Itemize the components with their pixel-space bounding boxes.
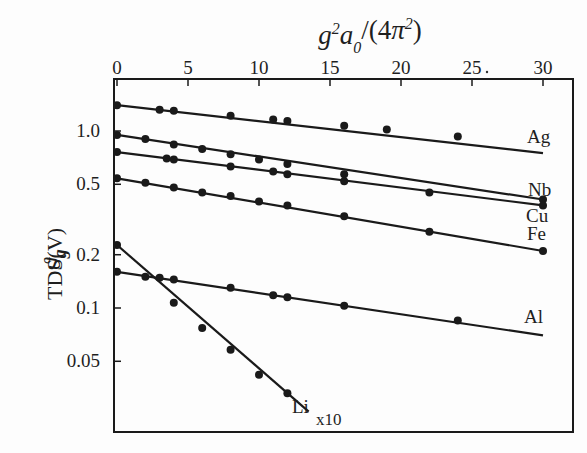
data-point	[283, 201, 291, 209]
y-tick-label: 0.05	[67, 350, 100, 371]
data-point	[269, 291, 277, 299]
plot-border	[114, 79, 573, 432]
data-point	[340, 177, 348, 185]
x-tick-label: 15	[321, 57, 340, 78]
series-group: AgNbCuFeAlLix10	[113, 101, 551, 429]
y-tick-label: 1.0	[76, 120, 100, 141]
data-point	[454, 133, 462, 141]
data-point	[255, 197, 263, 205]
x-axis-title: g2a0/(4π2)	[318, 15, 422, 56]
data-point	[141, 135, 149, 143]
x-axis-ticks: 051015202530	[112, 57, 552, 86]
fit-line	[117, 105, 543, 153]
data-point	[198, 145, 206, 153]
data-point	[340, 170, 348, 178]
series-label: Fe	[527, 223, 546, 244]
data-point	[340, 212, 348, 220]
x-tick-label: 0	[112, 57, 122, 78]
x-tick-label: 25	[463, 57, 482, 78]
data-point	[383, 125, 391, 133]
data-point	[198, 188, 206, 196]
data-point	[255, 156, 263, 164]
data-point	[113, 148, 121, 156]
data-point	[113, 268, 121, 276]
x-tick-label: 5	[183, 57, 193, 78]
series-label: Al	[524, 306, 543, 327]
y-tick-label: 0.2	[76, 244, 100, 265]
data-point	[227, 346, 235, 354]
fit-line	[117, 272, 543, 336]
data-point	[113, 174, 121, 182]
data-point	[425, 188, 433, 196]
data-point	[170, 140, 178, 148]
data-point	[269, 168, 277, 176]
x-tick-label: 20	[392, 57, 411, 78]
data-point	[113, 241, 121, 249]
tds-chart: 051015202530 1.00.50.20.10.05 AgNbCuFeAl…	[0, 0, 587, 453]
data-point	[227, 112, 235, 120]
x-tick-label: 30	[534, 57, 553, 78]
chart-canvas: 051015202530 1.00.50.20.10.05 AgNbCuFeAl…	[0, 0, 587, 453]
data-point	[340, 302, 348, 310]
data-point	[163, 154, 171, 162]
data-point	[170, 275, 178, 283]
data-point	[454, 316, 462, 324]
series-label: Nb	[528, 179, 551, 200]
data-point	[227, 284, 235, 292]
data-point	[156, 106, 164, 114]
data-point	[227, 150, 235, 158]
data-point	[113, 131, 121, 139]
data-point	[198, 324, 206, 332]
data-point	[141, 273, 149, 281]
stray-dot	[486, 71, 488, 73]
data-point	[170, 183, 178, 191]
data-point	[283, 293, 291, 301]
data-point	[283, 170, 291, 178]
data-point	[425, 228, 433, 236]
series-label: Li	[292, 396, 309, 417]
series-fe: Fe	[113, 174, 547, 255]
data-point	[170, 156, 178, 164]
data-point	[141, 179, 149, 187]
data-point	[255, 371, 263, 379]
y-axis-ticks: 1.00.50.20.10.05	[67, 120, 121, 371]
y-tick-label: 0.5	[76, 173, 100, 194]
plot-frame	[114, 79, 573, 432]
data-point	[227, 192, 235, 200]
data-point	[283, 160, 291, 168]
data-point	[283, 117, 291, 125]
series-nb: Nb	[113, 131, 551, 204]
data-point	[340, 122, 348, 130]
data-point	[170, 299, 178, 307]
series-label: Ag	[527, 126, 551, 147]
data-point	[283, 389, 291, 397]
data-point	[539, 247, 547, 255]
data-point	[170, 107, 178, 115]
series-li: Lix10	[113, 241, 342, 429]
series-multiplier-label: x10	[316, 410, 342, 429]
y-tick-label: 0.1	[76, 297, 100, 318]
fit-line	[117, 245, 309, 412]
data-point	[227, 163, 235, 171]
data-point	[269, 116, 277, 124]
fit-line	[117, 152, 543, 205]
data-point	[113, 101, 121, 109]
x-tick-label: 10	[250, 57, 269, 78]
